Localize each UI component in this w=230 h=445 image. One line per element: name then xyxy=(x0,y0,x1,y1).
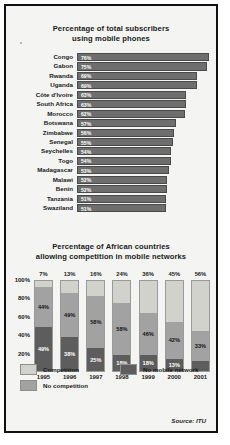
bar-value-label: 52% xyxy=(81,187,91,194)
stacked-bar-segment xyxy=(87,281,104,296)
bar: 62% xyxy=(77,110,185,118)
top-chart-title: Percentage of total subscribers using mo… xyxy=(6,24,216,44)
segment-value-label: 42% xyxy=(166,337,183,344)
legend-swatch-no-mobile-network xyxy=(120,364,137,375)
segment-value-label: 44% xyxy=(35,304,52,311)
legend-label-competition: Competition xyxy=(43,366,79,373)
stacked-bar-column: 16%58%25% xyxy=(86,270,105,372)
bar-track: 69% xyxy=(77,81,216,89)
top-bar-chart: Percentage of total subscribers using mo… xyxy=(6,24,216,213)
bar-track: 52% xyxy=(77,176,216,184)
y-axis: 100%80%60%40%20%0% xyxy=(6,270,32,372)
bar-category-label: Seychelles xyxy=(6,147,77,155)
bar-category-label: Senegal xyxy=(6,138,77,146)
bar: 75% xyxy=(77,62,207,70)
bar-category-label: Togo xyxy=(6,157,77,165)
bar-track: 63% xyxy=(77,100,216,108)
bar-value-label: 53% xyxy=(81,168,91,175)
stacked-bar: 42%13% xyxy=(165,280,184,372)
y-axis-tick: 60% xyxy=(18,314,30,320)
table-row: Côte d'Ivoire63% xyxy=(6,91,216,99)
segment-value-label: 16% xyxy=(86,270,105,278)
bottom-chart-title-line1: Percentage of African countries xyxy=(6,242,216,252)
bar-value-label: 75% xyxy=(81,64,91,71)
bar-track: 69% xyxy=(77,72,216,80)
bar-value-label: 51% xyxy=(81,196,91,203)
table-row: Tanzania51% xyxy=(6,195,216,203)
table-row: Congo76% xyxy=(6,53,216,61)
bar-value-label: 56% xyxy=(81,130,91,137)
stacked-bar: 33% xyxy=(191,280,210,372)
bar: 56% xyxy=(77,129,174,137)
stacked-bar-segment: 58% xyxy=(87,296,104,349)
bar: 57% xyxy=(77,119,176,127)
bar-value-label: 54% xyxy=(81,149,91,156)
table-row: Seychelles54% xyxy=(6,147,216,155)
stacked-bar-segment: 58% xyxy=(113,303,130,355)
bar: 76% xyxy=(77,53,209,61)
stacked-bar-segment: 49% xyxy=(61,293,78,337)
stacked-bar-segment: 46% xyxy=(140,313,157,354)
legend-label-no-mobile-network: No mobile network xyxy=(143,366,198,373)
legend-swatch-no-competition xyxy=(20,380,37,391)
segment-value-label: 7% xyxy=(34,270,53,278)
bar-category-label: Zimbabwe xyxy=(6,129,77,137)
legend-item-competition: Competition xyxy=(20,364,120,375)
segment-value-label: 24% xyxy=(112,270,131,278)
bar: 54% xyxy=(77,147,171,155)
stacked-bar-column: 7%44%49% xyxy=(34,270,53,372)
legend-row-1: Competition No mobile network xyxy=(20,364,216,375)
bar-category-label: Swaziland xyxy=(6,204,77,212)
bar-value-label: 69% xyxy=(81,73,91,80)
segment-value-label: 56% xyxy=(191,270,210,278)
bar-track: 75% xyxy=(77,62,216,70)
bar-category-label: Tanzania xyxy=(6,195,77,203)
bar-value-label: 63% xyxy=(81,92,91,99)
y-axis-tick: 40% xyxy=(18,332,30,338)
segment-value-label: 13% xyxy=(60,270,79,278)
bar: 51% xyxy=(77,195,166,203)
stacked-bar-segment xyxy=(113,281,130,303)
bar-track: 63% xyxy=(77,91,216,99)
table-row: Gabon75% xyxy=(6,62,216,70)
bar-track: 52% xyxy=(77,185,216,193)
bar-category-label: Botswana xyxy=(6,119,77,127)
bar: 69% xyxy=(77,81,197,89)
table-row: Senegal55% xyxy=(6,138,216,146)
stacked-bar: 44%49% xyxy=(34,280,53,372)
bottom-stacked-chart: Percentage of African countries allowing… xyxy=(6,242,216,372)
stacked-bar: 46%18% xyxy=(139,280,158,372)
bar: 54% xyxy=(77,157,171,165)
y-axis-tick: 100% xyxy=(15,277,30,283)
bar: 53% xyxy=(77,166,169,174)
bar-value-label: 62% xyxy=(81,111,91,118)
stacked-bar-segment: 42% xyxy=(166,322,183,360)
bar-track: 57% xyxy=(77,119,216,127)
stacked-bar-segment xyxy=(140,281,157,313)
stacked-columns: 7%44%49%13%49%38%16%58%25%24%58%18%36%46… xyxy=(34,270,210,372)
bar-category-label: Uganda xyxy=(6,81,77,89)
bar-track: 76% xyxy=(77,53,216,61)
stacked-bar-column: 24%58%18% xyxy=(112,270,131,372)
table-row: South Africa63% xyxy=(6,100,216,108)
bar: 51% xyxy=(77,204,166,212)
y-axis-tick: 80% xyxy=(18,295,30,301)
bar-track: 51% xyxy=(77,204,216,212)
top-chart-title-line2: using mobile phones xyxy=(6,34,216,44)
bar-track: 62% xyxy=(77,110,216,118)
bar-track: 51% xyxy=(77,195,216,203)
bar-track: 54% xyxy=(77,147,216,155)
y-axis-tick: 20% xyxy=(18,351,30,357)
table-row: Morocco62% xyxy=(6,110,216,118)
stacked-bar-segment xyxy=(166,281,183,322)
segment-value-label: 25% xyxy=(87,356,104,363)
source-note: Source: ITU xyxy=(171,417,206,424)
stacked-bar-segment xyxy=(192,281,209,331)
legend-item-no-competition: No competition xyxy=(20,380,120,391)
table-row: Madagascar53% xyxy=(6,166,216,174)
legend-swatch-competition xyxy=(20,364,37,375)
bar-category-label: South Africa xyxy=(6,100,77,108)
bottom-chart-plot: 100%80%60%40%20%0% 7%44%49%13%49%38%16%5… xyxy=(6,270,216,372)
legend-row-2: No competition xyxy=(20,380,216,391)
bottom-chart-title-line2: allowing competition in mobile networks xyxy=(6,252,216,262)
